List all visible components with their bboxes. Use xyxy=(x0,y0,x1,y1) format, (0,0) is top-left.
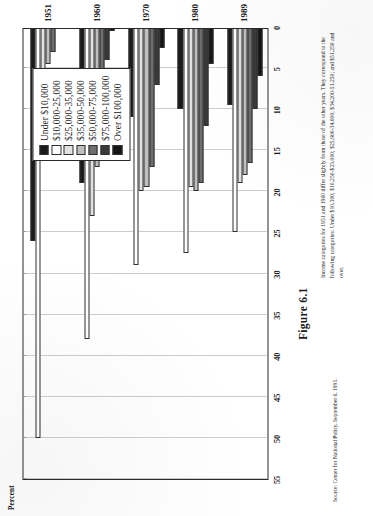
legend-item: $25,000-35,000 xyxy=(63,75,74,155)
bar xyxy=(188,28,193,187)
bar xyxy=(183,28,188,253)
legend-item-label: $10,000-25,000 xyxy=(51,80,61,141)
legend: Under $10,000$10,000-25,000$25,000-35,00… xyxy=(32,68,130,161)
bar xyxy=(227,28,232,105)
rotated-figure-canvas: Percent 0510152025303540455055 195119601… xyxy=(0,0,373,516)
legend-swatch-icon xyxy=(112,145,122,155)
bar xyxy=(154,28,159,85)
legend-swatch-icon xyxy=(51,145,61,155)
figure-note: Income categories for 1951 and 1960 diff… xyxy=(318,26,345,278)
legend-swatch-icon xyxy=(63,145,73,155)
figure-6-1: Percent 0510152025303540455055 195119601… xyxy=(0,0,373,516)
y-tick-label: 30 xyxy=(272,270,281,278)
y-tick-label: 35 xyxy=(272,312,281,320)
bar xyxy=(208,28,213,64)
legend-item: $50,000-75,000 xyxy=(87,75,98,155)
bar xyxy=(257,28,262,76)
category-label: 1951 xyxy=(42,4,52,22)
legend-swatch-icon xyxy=(39,145,49,155)
bar-group xyxy=(171,29,220,479)
y-tick-label: 10 xyxy=(272,106,281,114)
category-label: 1970 xyxy=(140,4,150,22)
legend-item-label: Under $10,000 xyxy=(39,83,49,141)
bar xyxy=(109,28,114,31)
figure-source: Source: Center for National Policy, Sept… xyxy=(330,332,339,502)
bar xyxy=(45,28,50,64)
bar-group xyxy=(220,29,268,479)
bar xyxy=(138,28,143,191)
y-tick-label: 25 xyxy=(272,229,281,237)
y-tick-label: 0 xyxy=(272,26,281,30)
bar xyxy=(193,28,198,191)
category-label: 1980 xyxy=(189,4,199,22)
legend-item: Under $10,000 xyxy=(38,75,49,155)
legend-item-label: $75,000-100,000 xyxy=(100,75,110,141)
bar xyxy=(242,28,247,175)
legend-item: $10,000-25,000 xyxy=(50,75,61,155)
bar xyxy=(252,28,257,109)
legend-swatch-icon xyxy=(100,145,110,155)
y-tick-label: 20 xyxy=(272,188,281,196)
bar xyxy=(232,28,237,232)
bar xyxy=(177,28,182,109)
bar xyxy=(159,28,164,48)
bar xyxy=(149,28,154,167)
legend-swatch-icon xyxy=(76,145,86,155)
bar xyxy=(198,28,203,183)
bar xyxy=(104,28,109,60)
legend-item-label: $50,000-75,000 xyxy=(87,80,97,141)
bar xyxy=(247,28,252,163)
legend-item-label: $25,000-35,000 xyxy=(63,80,73,141)
y-axis-title: Percent xyxy=(7,485,15,510)
y-tick-label: 55 xyxy=(272,476,281,484)
bar xyxy=(203,28,208,126)
y-tick-label: 15 xyxy=(272,147,281,155)
legend-item: $35,000-50,000 xyxy=(75,75,86,155)
figure-caption: Figure 6.1 xyxy=(296,287,308,340)
y-tick-label: 45 xyxy=(272,394,281,402)
legend-item: $75,000-100,000 xyxy=(99,75,110,155)
legend-item-label: $35,000-50,000 xyxy=(75,80,85,141)
y-tick-label: 50 xyxy=(272,435,281,443)
legend-item-label: Over $100,000 xyxy=(112,83,122,141)
bar xyxy=(133,28,138,265)
y-tick-label: 5 xyxy=(272,67,281,71)
y-tick-label: 40 xyxy=(272,353,281,361)
legend-item: Over $100,000 xyxy=(111,75,122,155)
category-label: 1960 xyxy=(91,4,101,22)
bar xyxy=(50,28,55,52)
category-label: 1989 xyxy=(238,4,248,22)
bar xyxy=(237,28,242,183)
legend-swatch-icon xyxy=(88,145,98,155)
bar xyxy=(143,28,148,187)
